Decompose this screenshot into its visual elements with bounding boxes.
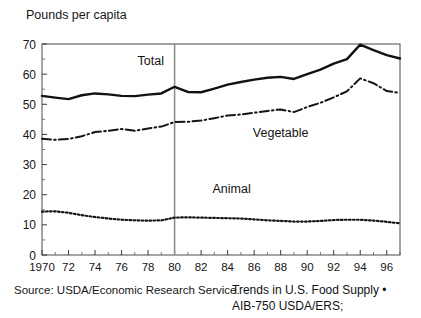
svg-text:20: 20 <box>23 188 37 202</box>
svg-text:72: 72 <box>62 261 75 273</box>
svg-text:50: 50 <box>23 98 37 112</box>
annotation-total: Total <box>138 54 164 68</box>
source-text-right: Trends in U.S. Food Supply • AIB-750 USD… <box>232 282 387 314</box>
svg-text:92: 92 <box>327 261 340 273</box>
svg-text:74: 74 <box>89 261 102 273</box>
line-chart-svg: 010203040506070 197072747678808284868890… <box>0 0 421 318</box>
svg-text:10: 10 <box>23 218 37 232</box>
svg-text:30: 30 <box>23 158 37 172</box>
svg-text:94: 94 <box>354 261 367 273</box>
svg-text:82: 82 <box>195 261 208 273</box>
source-report-line: AIB-750 USDA/ERS; <box>232 298 387 314</box>
svg-text:86: 86 <box>248 261 261 273</box>
svg-text:78: 78 <box>142 261 155 273</box>
annotation-animal: Animal <box>212 182 250 196</box>
chart-figure: Pounds per capita 010203040506070 197072… <box>0 0 421 318</box>
svg-text:70: 70 <box>23 38 37 52</box>
svg-text:96: 96 <box>380 261 393 273</box>
plot-frame <box>42 44 400 255</box>
source-title-line: Trends in U.S. Food Supply • <box>232 282 387 298</box>
svg-text:84: 84 <box>221 261 234 273</box>
y-axis-ticks: 010203040506070 <box>23 38 47 263</box>
svg-text:40: 40 <box>23 128 37 142</box>
svg-text:76: 76 <box>115 261 128 273</box>
svg-text:60: 60 <box>23 68 37 82</box>
data-series-group <box>42 45 400 224</box>
svg-text:90: 90 <box>301 261 314 273</box>
svg-text:1970: 1970 <box>29 261 55 273</box>
svg-text:80: 80 <box>168 261 181 273</box>
series-line-animal <box>42 211 400 223</box>
source-text-left: Source: USDA/Economic Research Service. <box>14 284 240 296</box>
svg-text:88: 88 <box>274 261 287 273</box>
plot-area-wrapper: 010203040506070 197072747678808284868890… <box>0 0 421 318</box>
x-axis-ticks: 197072747678808284868890929496 <box>29 250 400 273</box>
annotation-vegetable: Vegetable <box>253 126 309 140</box>
